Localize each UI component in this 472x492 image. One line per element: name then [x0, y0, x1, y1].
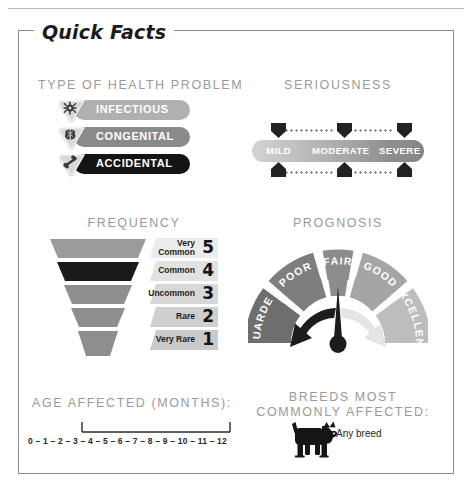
frequency-label: VeryCommon — [158, 239, 195, 256]
frequency-rank: 3 — [202, 283, 214, 303]
gauge-inner-excellent — [384, 310, 395, 344]
badge-label: ACCIDENTAL — [96, 157, 173, 169]
frequency-funnel: VeryCommon 5 Common 4 Uncommon 3 Rare 2 … — [48, 238, 218, 360]
frequency-row-4[interactable]: Common 4 — [150, 261, 218, 281]
gauge-dial: GUARDED POOR FAIR GOOD EXCELLENT — [248, 240, 428, 360]
badge-accidental[interactable]: ACCIDENTAL — [56, 154, 190, 174]
gauge-inner-poor — [296, 288, 323, 305]
age-range-bracket — [24, 392, 240, 434]
age-scale-ticks: 0 – 1 – 2 – 3 – 4 – 5 – 6 – 7 – 8 – 9 – … — [28, 436, 236, 446]
dotted-connector — [348, 129, 394, 132]
marker-mild-bottom — [270, 161, 287, 178]
marker-mild-top — [270, 122, 287, 139]
dotted-connector — [348, 171, 394, 174]
health-problem-heading: TYPE OF HEALTH PROBLEM — [38, 78, 234, 92]
seriousness-label-mild: MILD — [266, 145, 291, 156]
page-title: Quick Facts — [34, 21, 174, 43]
gauge-label-fair: FAIR — [323, 254, 354, 267]
gauge-inner-good — [353, 288, 380, 305]
marker-severe-top — [396, 122, 413, 139]
funnel-level-4 — [57, 262, 139, 281]
funnel-level-1 — [78, 331, 118, 356]
germ-icon — [56, 99, 87, 122]
bone-icon — [56, 153, 87, 176]
top-divider — [8, 8, 464, 9]
frequency-rank: 4 — [202, 260, 214, 280]
breeds-affected: Any breed — [250, 388, 436, 462]
frequency-rank: 2 — [202, 306, 214, 326]
frequency-label: Common — [158, 266, 195, 275]
marker-moderate-top — [336, 122, 353, 139]
dog-icon — [278, 414, 344, 460]
funnel-level-5 — [50, 239, 146, 258]
frequency-row-5[interactable]: VeryCommon 5 — [150, 238, 218, 258]
frequency-label: Very Rare — [156, 335, 195, 344]
seriousness-heading: SERIOUSNESS — [248, 78, 428, 92]
frequency-rank: 5 — [202, 237, 214, 257]
frequency-label: Rare — [176, 312, 195, 321]
age-affected-scale: 0 – 1 – 2 – 3 – 4 – 5 – 6 – 7 – 8 – 9 – … — [24, 392, 240, 462]
marker-moderate-bottom — [336, 161, 353, 178]
badge-label: INFECTIOUS — [96, 103, 169, 115]
funnel-level-3 — [64, 285, 132, 304]
frequency-label: Uncommon — [148, 289, 195, 298]
frequency-rank: 1 — [202, 329, 214, 349]
quick-facts-page: Quick Facts TYPE OF HEALTH PROBLEM INFEC… — [0, 0, 472, 492]
prognosis-heading: PROGNOSIS — [248, 216, 428, 230]
funnel-level-2 — [71, 308, 125, 327]
dotted-connector — [284, 129, 334, 132]
prognosis-gauge: GUARDED POOR FAIR GOOD EXCELLENT — [248, 240, 428, 360]
gauge-inner-guarded — [281, 310, 292, 344]
marker-severe-bottom — [396, 161, 413, 178]
frequency-heading: FREQUENCY — [44, 216, 224, 230]
health-problem-list: INFECTIOUS CONGENITAL — [56, 100, 190, 181]
seriousness-label-moderate: MODERATE — [312, 145, 370, 156]
seriousness-scale: MILD MODERATE SEVERE — [248, 120, 428, 180]
frequency-row-3[interactable]: Uncommon 3 — [150, 284, 218, 304]
badge-label: CONGENITAL — [96, 130, 174, 142]
dotted-connector — [284, 171, 334, 174]
breed-value: Any breed — [336, 428, 382, 439]
funnel-shape — [48, 238, 148, 360]
seriousness-bar: MILD MODERATE SEVERE — [252, 140, 424, 162]
brain-icon — [56, 126, 87, 149]
frequency-row-2[interactable]: Rare 2 — [150, 307, 218, 327]
badge-infectious[interactable]: INFECTIOUS — [56, 100, 190, 120]
badge-congenital[interactable]: CONGENITAL — [56, 127, 190, 147]
seriousness-label-severe: SEVERE — [379, 145, 421, 156]
frequency-row-1[interactable]: Very Rare 1 — [150, 330, 218, 350]
